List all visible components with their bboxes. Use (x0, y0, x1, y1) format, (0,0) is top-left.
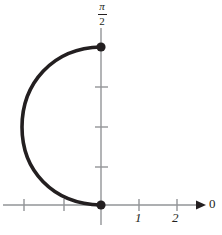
plot-canvas: π 2 1 2 0 (0, 0, 222, 235)
x-axis-arrowhead (196, 201, 206, 210)
pi-numerator: π (92, 1, 112, 13)
endpoint-top-dot (96, 42, 105, 51)
endpoint-origin-dot (96, 200, 105, 209)
x-tick-label-2: 2 (172, 211, 179, 224)
y-axis-top-label: π 2 (92, 1, 112, 27)
pi-denominator: 2 (92, 15, 112, 28)
x-tick-label-1: 1 (135, 211, 142, 224)
chart-svg (0, 0, 222, 235)
x-axis-arrow-label: 0 (209, 197, 216, 210)
arc-curve (22, 47, 101, 205)
y-axis-group (95, 28, 108, 225)
